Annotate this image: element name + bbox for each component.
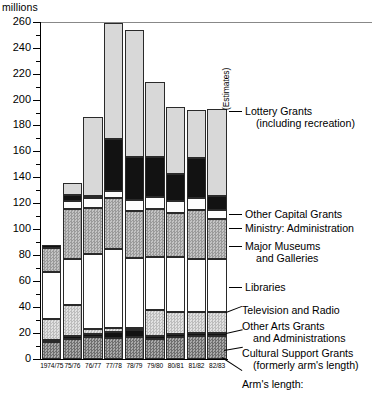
segment-museums [63,209,82,259]
y-tick-260 [33,22,40,23]
y-tick-label-0: 0 [1,353,31,364]
bar-78-79 [125,30,144,359]
segment-museums [187,210,206,259]
segment-tv [83,329,102,334]
callout-other-capital-grants: Other Capital Grants [245,208,342,220]
segment-arts [83,334,102,337]
segment-museums [207,219,226,259]
segment-libraries [125,258,144,328]
segment-libraries [63,259,82,306]
segment-ministry [104,191,123,199]
bar-82-83 [207,109,226,359]
segment-tv [207,312,226,333]
bar-79-80 [145,82,164,359]
segment-lottery [166,107,185,174]
segment-capital [187,158,206,198]
segment-tv [63,305,82,336]
segment-libraries [187,259,206,312]
y-tick-40 [33,307,40,308]
bar-77-78 [104,23,123,359]
segment-museums [125,211,144,258]
segment-arts [63,336,82,339]
y-tick-label-140: 140 [1,171,31,182]
y-axis-labels: 020406080100120140160180200220240260 [0,0,31,397]
bar-80-81 [166,107,185,359]
callout-libraries: Libraries [245,281,286,293]
segment-museums [166,213,185,258]
segment-museums [42,248,61,272]
segment-tv [145,310,164,337]
segment-libraries [42,272,61,320]
segment-tv [187,312,206,333]
estimates-annotation: (Estimates) [221,68,231,110]
leader-ministry [229,228,242,229]
segment-libraries [166,257,185,311]
leader-tv [226,306,242,313]
segment-arts [187,333,206,336]
segment-libraries [145,257,164,309]
bar-1974-75 [42,245,61,359]
y-tick-120 [33,203,40,204]
bar-76-77 [83,117,102,359]
bar-75-76 [63,183,82,359]
segment-cultural [207,336,226,359]
segment-cultural [104,338,123,359]
segment-ministry [187,198,206,210]
stacked-bar-chart: millions 0204060801001201401601802002202… [0,0,373,397]
callout-major-museums: Major Museums and Galleries [245,240,320,265]
segment-arts [207,333,226,336]
segment-capital [166,174,185,201]
callout-arms-length: Arm's length: [242,378,304,390]
y-tick-20 [33,333,40,334]
segment-arts [125,330,144,337]
segment-arts [104,332,123,337]
y-tick-label-60: 60 [1,275,31,286]
y-tick-60 [33,281,40,282]
y-tick-label-200: 200 [1,94,31,105]
callout-lottery-grants: Lottery Grants (including recreation) [245,105,355,130]
segment-tv [42,319,61,339]
segment-ministry [207,210,226,219]
segment-lottery [104,23,123,138]
segment-arts [42,340,61,342]
segment-lottery [207,109,226,196]
y-tick-0 [33,359,40,360]
segment-lottery [63,183,82,195]
segment-cultural [63,339,82,359]
segment-tv [166,312,185,335]
y-tick-220 [33,74,40,75]
segment-ministry [125,200,144,211]
segment-lottery [145,82,164,157]
segment-cultural [83,337,102,359]
segment-ministry [63,201,82,209]
leader-museums [229,246,242,247]
segment-ministry [83,198,102,208]
segment-cultural [187,336,206,359]
y-tick-140 [33,177,40,178]
y-tick-label-160: 160 [1,145,31,156]
segment-capital [104,139,123,191]
segment-ministry [145,197,164,209]
y-tick-200 [33,100,40,101]
y-tick-label-120: 120 [1,197,31,208]
y-tick-label-80: 80 [1,249,31,260]
segment-libraries [83,254,102,329]
leader-arts [226,329,243,334]
segment-arts [166,334,185,337]
segment-cultural [166,337,185,359]
leader-libraries [229,287,242,288]
segment-cultural [145,339,164,359]
segment-cultural [125,337,144,359]
segment-lottery [187,110,206,158]
callout-cultural-support-grants: Cultural Support Grants (formerly arm's … [242,347,359,372]
segment-libraries [104,249,123,327]
segment-museums [145,209,164,257]
leader-lottery [229,111,242,112]
y-tick-160 [33,151,40,152]
y-tick-180 [33,125,40,126]
leader-cultural [224,347,243,351]
segment-museums [83,208,102,254]
segment-cultural [42,342,61,360]
y-tick-80 [33,255,40,256]
segment-libraries [207,259,226,312]
